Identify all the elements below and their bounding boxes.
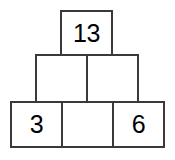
pyramid-cell-bottom-2[interactable]: 6 — [112, 101, 165, 148]
pyramid-cell-middle-1[interactable] — [86, 54, 139, 103]
pyramid-cell-top-0[interactable]: 13 — [60, 10, 113, 56]
number-pyramid-figure: 13 3 6 — [0, 0, 175, 160]
pyramid-row-middle — [35, 54, 139, 103]
pyramid-row-bottom: 3 6 — [10, 101, 165, 148]
pyramid-row-top: 13 — [60, 10, 113, 56]
pyramid-cell-bottom-1[interactable] — [61, 101, 114, 148]
pyramid-cell-bottom-0[interactable]: 3 — [10, 101, 63, 148]
pyramid-cell-middle-0[interactable] — [35, 54, 88, 103]
